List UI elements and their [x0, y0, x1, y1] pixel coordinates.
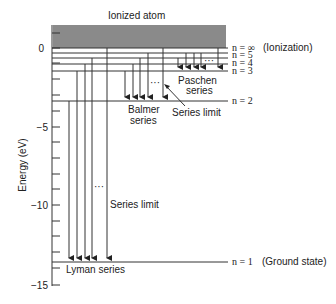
balmer-ellipsis: ··· — [150, 77, 160, 88]
level-annotation-ionization: (Ionization) — [263, 42, 312, 53]
axis-label: Energy (eV) — [17, 138, 28, 191]
lyman-series-label: Lyman series — [66, 264, 125, 275]
level-label-n3: n = 3 — [232, 65, 253, 76]
level-label-n2: n = 2 — [232, 95, 253, 106]
paschen-series-label-2: series — [186, 85, 213, 96]
paschen-ellipsis: ··· — [204, 55, 214, 66]
balmer-series-arrows — [125, 48, 163, 97]
balmer-limit-pointer — [166, 86, 185, 106]
tick-label-neg5: −5 — [37, 122, 49, 133]
lyman-series-limit: Series limit — [110, 199, 159, 210]
lyman-ellipsis: ··· — [94, 181, 104, 192]
tick-label-0: 0 — [38, 43, 44, 54]
tick-label-neg15: −15 — [31, 280, 48, 291]
level-annotation-ground: (Ground state) — [262, 256, 326, 267]
ionized-atom-title: Ionized atom — [108, 10, 165, 21]
level-label-n1: n = 1 — [232, 256, 253, 267]
balmer-series-limit: Series limit — [172, 107, 221, 118]
balmer-limit-arrowhead — [164, 84, 170, 89]
tick-label-neg10: −10 — [31, 200, 48, 211]
lyman-series-arrows — [69, 48, 107, 258]
ionized-band — [53, 25, 226, 48]
energy-level-diagram: Ionized atom 0 −5 −10 −15 Energy (eV) n … — [0, 0, 336, 304]
balmer-series-label-1: Balmer — [128, 104, 160, 115]
balmer-series-label-2: series — [130, 115, 157, 126]
